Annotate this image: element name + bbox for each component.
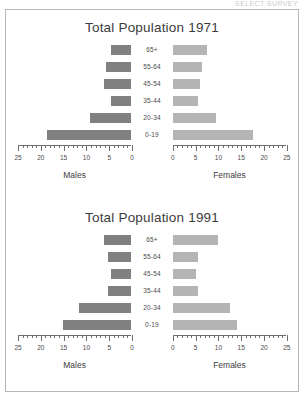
axis-tick-major [86, 335, 87, 341]
pyramid-row: 35-44 [18, 282, 286, 299]
axis-name-females-1991: Females [173, 360, 286, 370]
axis-tick-minor [269, 335, 270, 338]
female-bar-cell [173, 75, 286, 92]
axis-tick-minor [32, 145, 33, 148]
female-bar [173, 252, 198, 262]
axis-tick-minor [182, 145, 183, 148]
axis-tick-label: 15 [60, 344, 67, 351]
axis-tick-minor [214, 335, 215, 338]
axis-tick-minor [205, 335, 206, 338]
axis-tick-minor [114, 145, 115, 148]
axis-tick-label: 0 [130, 344, 134, 351]
axis-tick-minor [200, 335, 201, 338]
axis-tick-minor [232, 335, 233, 338]
axis-tick-minor [59, 335, 60, 338]
age-group-label: 0-19 [131, 321, 173, 328]
axis-tick-minor [187, 145, 188, 148]
tick-labels-left-1991: 2520151050 [18, 344, 131, 355]
axis-tick-major [41, 145, 42, 151]
female-bar [173, 235, 219, 245]
axis-tick-minor [246, 335, 247, 338]
male-bar [104, 235, 131, 245]
axis-tick-label: 25 [14, 154, 21, 161]
age-group-label: 55-64 [131, 63, 173, 70]
axis-tick-minor [23, 335, 24, 338]
male-bar-cell [18, 231, 131, 248]
tick-labels-1991: 2520151050 0510152025 [6, 344, 298, 355]
axis-tick-minor [182, 335, 183, 338]
axis-right-1991 [173, 335, 286, 344]
axis-tick-major [41, 335, 42, 341]
axis-tick-minor [68, 335, 69, 338]
axis-tick-label: 20 [260, 344, 267, 351]
male-bar [108, 252, 131, 262]
axis-name-males-1991: Males [18, 360, 131, 370]
axis-tick-minor [278, 335, 279, 338]
male-bar-cell [18, 75, 131, 92]
female-bar-cell [173, 248, 286, 265]
axis-tick-minor [91, 145, 92, 148]
male-bar-cell [18, 41, 131, 58]
female-bar-cell [173, 282, 286, 299]
female-bar-cell [173, 109, 286, 126]
axis-tick-minor [77, 335, 78, 338]
axis-tick-label: 15 [238, 344, 245, 351]
pyramid-row: 55-64 [18, 58, 286, 75]
axis-tick-label: 10 [215, 154, 222, 161]
male-bar [108, 286, 131, 296]
pyramid-row: 45-54 [18, 265, 286, 282]
female-bar [173, 96, 198, 106]
axis-tick-minor [200, 145, 201, 148]
axis-tick-minor [278, 145, 279, 148]
axis-tick-label: 15 [60, 154, 67, 161]
age-group-label: 65+ [131, 46, 173, 53]
axis-tick-minor [191, 335, 192, 338]
male-bar-cell [18, 316, 131, 333]
pyramid-row: 55-64 [18, 248, 286, 265]
pyramid-row: 0-19 [18, 316, 286, 333]
axis-tick-minor [205, 145, 206, 148]
screenshot-page: SELECT SURVEY Total Population 1971 65+5… [0, 0, 304, 396]
axis-tick-minor [273, 145, 274, 148]
axis-tick-minor [246, 145, 247, 148]
axis-tick-minor [118, 335, 119, 338]
axis-right-1971 [173, 145, 286, 154]
chart-panel-1991: Total Population 1991 65+55-6445-5435-44… [6, 200, 298, 390]
axis-tick-minor [177, 145, 178, 148]
axis-tick-minor [123, 335, 124, 338]
age-group-label: 35-44 [131, 97, 173, 104]
axis-tick-major [264, 335, 265, 341]
age-group-label: 45-54 [131, 270, 173, 277]
axis-tick-minor [250, 335, 251, 338]
axis-tick-major [86, 145, 87, 151]
female-bar-cell [173, 92, 286, 109]
axis-tick-minor [73, 335, 74, 338]
axis-tick-minor [237, 335, 238, 338]
axis-tick-major [241, 145, 242, 151]
axis-tick-minor [96, 145, 97, 148]
axis-tick-label: 5 [194, 344, 198, 351]
axis-tick-minor [127, 335, 128, 338]
pyramid-row: 45-54 [18, 75, 286, 92]
axis-tick-label: 5 [107, 154, 111, 161]
axis-tick-label: 10 [83, 344, 90, 351]
male-bar [104, 79, 131, 89]
female-bar-cell [173, 58, 286, 75]
axis-tick-label: 0 [130, 154, 134, 161]
axis-tick-minor [114, 335, 115, 338]
axis-tick-minor [82, 335, 83, 338]
axis-tick-minor [100, 335, 101, 338]
axis-name-males-1971: Males [18, 170, 131, 180]
pyramid-row: 35-44 [18, 92, 286, 109]
axis-tick-minor [68, 145, 69, 148]
male-bar-cell [18, 265, 131, 282]
male-bar-cell [18, 126, 131, 143]
pyramid-row: 0-19 [18, 126, 286, 143]
axis-tick-label: 25 [283, 154, 290, 161]
axis-tick-minor [282, 335, 283, 338]
axis-tick-minor [54, 145, 55, 148]
chart-title-1971: Total Population 1971 [6, 10, 298, 35]
female-bar [173, 62, 203, 72]
axis-tick-major [218, 335, 219, 341]
axis-tick-minor [209, 145, 210, 148]
